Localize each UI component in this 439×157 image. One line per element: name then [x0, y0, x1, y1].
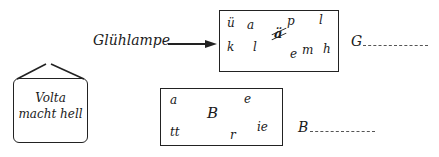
volta-sign: Volta macht hell — [13, 78, 88, 143]
arrow-head-icon — [205, 40, 217, 48]
letter-k: k — [227, 41, 234, 53]
letter-l: l — [253, 41, 257, 53]
answer-1-start: G — [351, 34, 362, 48]
letter-e: e — [244, 93, 251, 105]
letter-e: e — [290, 48, 297, 60]
letter-h: h — [323, 43, 331, 55]
answer-1-line[interactable] — [363, 45, 428, 46]
letter-B: B — [207, 106, 218, 121]
answer-2-start: B — [298, 120, 308, 134]
letter-ü: ü — [227, 17, 235, 29]
letter-tt: tt — [170, 126, 180, 138]
sign-line-1: Volta — [14, 91, 87, 105]
letter-a: a — [170, 94, 177, 106]
glühlampe-label: Glühlampe — [93, 33, 170, 47]
letter-r: r — [230, 129, 236, 141]
arrow-line — [168, 43, 208, 45]
sign-hanger-icon — [0, 0, 100, 90]
letter-ie: ie — [257, 121, 268, 133]
letter-l: l — [319, 14, 323, 26]
answer-2-line[interactable] — [310, 131, 375, 132]
letter-p: p — [287, 15, 295, 27]
sign-line-2: macht hell — [14, 107, 87, 121]
letter-m: m — [302, 44, 313, 56]
letter-a: a — [247, 19, 254, 31]
